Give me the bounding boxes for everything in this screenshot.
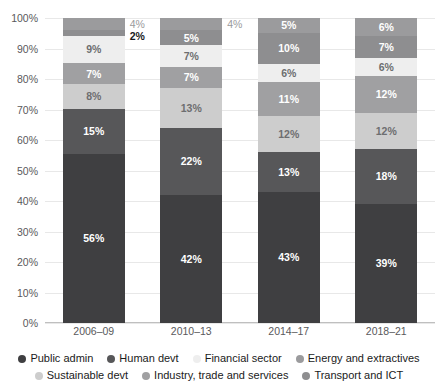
bar-group[interactable]: 39%18%12%12%6%7%6% [355, 18, 417, 323]
legend-swatch-icon [296, 355, 304, 363]
bar-segment-label: 8% [86, 91, 101, 102]
y-axis-tick-label: 80% [17, 74, 38, 85]
bar-segment[interactable]: 56% [63, 154, 125, 323]
y-axis-tick-label: 30% [17, 226, 38, 237]
y-axis-tick-label: 100% [11, 13, 38, 24]
bar-segment-label: 6% [379, 62, 394, 73]
bar-stack: 39%18%12%12%6%7%6% [355, 18, 417, 323]
stacked-bar-chart: 0%10%20%30%40%50%60%70%80%90%100% 56%15%… [0, 0, 438, 392]
bar-segment[interactable] [160, 18, 222, 30]
y-axis-tick-label: 70% [17, 104, 38, 115]
y-axis: 0%10%20%30%40%50%60%70%80%90%100% [0, 18, 42, 323]
legend-swatch-icon [35, 372, 43, 380]
bar-segment[interactable]: 18% [355, 149, 417, 204]
bar-segment-label: 15% [83, 126, 104, 137]
bar-segment[interactable]: 42% [160, 195, 222, 323]
gridline [45, 323, 435, 324]
legend-label: Industry, trade and services [154, 370, 288, 381]
bar-segment[interactable]: 12% [355, 76, 417, 113]
bar-segment-label: 7% [379, 42, 394, 53]
bar-segment-label: 7% [86, 69, 101, 80]
bar-segment-outside-label: 4% [130, 19, 145, 30]
bar-segment[interactable]: 6% [355, 58, 417, 76]
legend-swatch-icon [142, 372, 150, 380]
bar-segment-label: 12% [376, 126, 397, 137]
bar-group[interactable]: 56%15%8%7%9% [63, 18, 125, 323]
bar-segment[interactable]: 7% [355, 36, 417, 57]
legend-swatch-icon [18, 355, 26, 363]
bar-segment[interactable]: 22% [160, 128, 222, 195]
bar-segment-label: 12% [376, 89, 397, 100]
bar-segment[interactable]: 5% [258, 18, 320, 33]
bar-segment-label: 56% [83, 233, 104, 244]
bar-segment[interactable]: 5% [160, 30, 222, 45]
bar-segment[interactable]: 7% [160, 67, 222, 88]
y-axis-tick-label: 50% [17, 165, 38, 176]
chart-legend: Public adminHuman devtFinancial sectorEn… [0, 350, 438, 384]
legend-label: Energy and extractives [308, 353, 420, 364]
bar-segment-label: 7% [184, 51, 199, 62]
legend-item-financial-sector[interactable]: Financial sector [193, 353, 282, 364]
y-axis-tick-label: 60% [17, 135, 38, 146]
bar-segment[interactable]: 6% [355, 18, 417, 36]
legend-label: Public admin [30, 353, 93, 364]
y-axis-tick-label: 0% [23, 318, 38, 329]
bar-segment-outside-label: 4% [227, 19, 242, 30]
bar-segment[interactable]: 39% [355, 204, 417, 323]
bar-segment-label: 5% [281, 20, 296, 31]
bar-segment[interactable]: 12% [355, 113, 417, 150]
bar-segment[interactable] [63, 30, 125, 36]
bar-segment-label: 39% [376, 258, 397, 269]
bar-group[interactable]: 42%22%13%7%7%5% [160, 18, 222, 323]
legend-label: Human devt [119, 353, 178, 364]
bar-stack: 42%22%13%7%7%5% [160, 18, 222, 323]
bar-segment-label: 9% [86, 44, 101, 55]
legend-row: Public adminHuman devtFinancial sectorEn… [8, 350, 430, 367]
bar-segment[interactable]: 6% [258, 64, 320, 82]
legend-item-transport-and-ict[interactable]: Transport and ICT [302, 370, 403, 381]
bar-segment-label: 11% [279, 94, 299, 105]
bar-stack: 43%13%12%11%6%10%5% [258, 18, 320, 323]
bar-segment[interactable]: 15% [63, 109, 125, 154]
bar-segment-label: 6% [281, 68, 296, 79]
bar-segment[interactable]: 13% [160, 88, 222, 128]
x-axis-tick-label: 2006–09 [63, 326, 125, 337]
legend-item-energy-and-extractives[interactable]: Energy and extractives [296, 353, 420, 364]
bar-segment[interactable]: 9% [63, 36, 125, 63]
bar-segment[interactable]: 13% [258, 152, 320, 192]
legend-item-sustainable-devt[interactable]: Sustainable devt [35, 370, 128, 381]
bar-segment[interactable]: 10% [258, 33, 320, 64]
legend-label: Financial sector [205, 353, 282, 364]
x-axis-tick-label: 2014–17 [258, 326, 320, 337]
y-axis-tick-label: 40% [17, 196, 38, 207]
bar-segment-label: 12% [278, 129, 299, 140]
bar-segment-label: 10% [278, 43, 299, 54]
bar-segment-label: 22% [181, 156, 202, 167]
x-axis-tick-label: 2018–21 [355, 326, 417, 337]
x-axis-tick-label: 2010–13 [160, 326, 222, 337]
bar-stack: 56%15%8%7%9% [63, 18, 125, 323]
bar-group[interactable]: 43%13%12%11%6%10%5% [258, 18, 320, 323]
bar-segment-label: 43% [278, 252, 299, 263]
y-axis-tick-label: 20% [17, 257, 38, 268]
bar-segment[interactable]: 7% [160, 45, 222, 66]
bar-segment[interactable]: 43% [258, 192, 320, 323]
bar-segment[interactable] [63, 18, 125, 30]
y-axis-tick-label: 10% [17, 287, 38, 298]
bar-segment-label: 42% [181, 254, 202, 265]
bar-segment-label: 6% [379, 22, 394, 33]
bar-segment-label: 5% [184, 33, 199, 44]
bar-segment[interactable]: 7% [63, 63, 125, 84]
bar-segment-label: 18% [376, 171, 397, 182]
legend-item-human-devt[interactable]: Human devt [107, 353, 178, 364]
bar-segment[interactable]: 12% [258, 116, 320, 153]
legend-swatch-icon [107, 355, 115, 363]
bar-segment-label: 13% [181, 103, 202, 114]
bar-segment[interactable]: 11% [258, 82, 320, 116]
legend-item-public-admin[interactable]: Public admin [18, 353, 93, 364]
bar-segment[interactable]: 8% [63, 84, 125, 108]
legend-item-industry-trade-and-services[interactable]: Industry, trade and services [142, 370, 288, 381]
legend-label: Sustainable devt [47, 370, 128, 381]
legend-swatch-icon [193, 355, 201, 363]
y-axis-tick-label: 90% [17, 43, 38, 54]
